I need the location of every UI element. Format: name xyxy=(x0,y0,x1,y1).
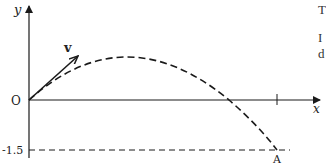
velocity-label: v xyxy=(63,40,72,55)
cropped-text-line-2: I xyxy=(318,30,322,46)
y-marker-label: -1.5 xyxy=(2,144,23,157)
endpoint-A-label: A xyxy=(272,153,282,165)
origin-label: O xyxy=(11,94,21,108)
trajectory-curve xyxy=(29,57,277,150)
x-axis-label: x xyxy=(313,102,320,116)
velocity-vector xyxy=(29,56,78,100)
cropped-text-line-1: T xyxy=(318,2,326,18)
cropped-text-line-3: d xyxy=(318,46,325,62)
y-axis-label: y xyxy=(13,2,22,17)
